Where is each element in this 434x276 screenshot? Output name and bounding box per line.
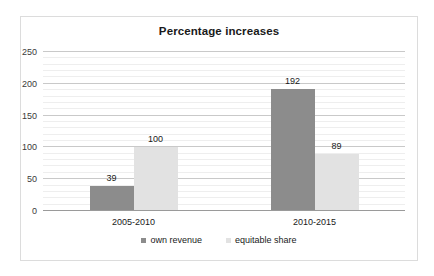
legend-swatch-icon: [141, 238, 146, 243]
legend-label: equitable share: [235, 235, 297, 245]
chart-title: Percentage increases: [21, 25, 417, 37]
legend-swatch-icon: [226, 238, 231, 243]
bar-value-label: 39: [106, 173, 116, 183]
x-axis-line: [43, 210, 405, 211]
chart-legend: own revenueequitable share: [21, 235, 417, 245]
y-axis-tick-label: 0: [32, 206, 37, 216]
bar[interactable]: 100: [134, 147, 178, 211]
category-group: 192892010-2015: [224, 52, 405, 211]
bar-value-label: 89: [331, 141, 341, 151]
bar-value-label: 192: [285, 76, 300, 86]
y-axis-tick-label: 200: [22, 79, 37, 89]
bar[interactable]: 89: [315, 154, 359, 211]
y-axis-tick-label: 100: [22, 142, 37, 152]
y-axis-tick-label: 150: [22, 111, 37, 121]
category-group: 391002005-2010: [43, 52, 224, 211]
legend-label: own revenue: [150, 235, 202, 245]
bar[interactable]: 39: [90, 186, 134, 211]
bar[interactable]: 192: [271, 89, 315, 211]
x-axis-category-label: 2010-2015: [293, 217, 336, 227]
y-axis-tick-label: 50: [27, 174, 37, 184]
y-axis-tick-label: 250: [22, 47, 37, 57]
chart-frame: Percentage increases 050100150200250 391…: [20, 16, 418, 261]
legend-entry[interactable]: equitable share: [226, 235, 297, 245]
legend-entry[interactable]: own revenue: [141, 235, 202, 245]
bar-value-label: 100: [148, 134, 163, 144]
x-axis-category-label: 2005-2010: [112, 217, 155, 227]
plot-area: 050100150200250 391002005-2010192892010-…: [43, 52, 405, 211]
